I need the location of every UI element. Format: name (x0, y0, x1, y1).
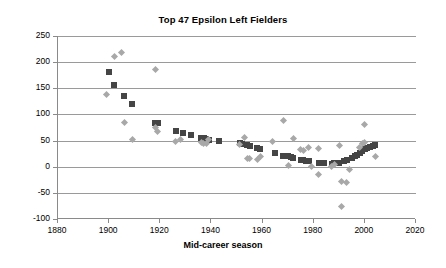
data-point-square (188, 132, 194, 138)
data-point-diamond (338, 203, 345, 210)
x-tick-label: 1920 (139, 225, 179, 235)
x-axis-title: Mid-career season (0, 240, 446, 250)
data-point-diamond (279, 117, 286, 124)
data-point-square (257, 146, 263, 152)
data-point-square (321, 160, 327, 166)
data-point-square (272, 150, 278, 156)
y-tick-label: 50 (10, 135, 50, 145)
data-point-diamond (154, 128, 161, 135)
gridline (58, 88, 416, 89)
data-point-diamond (336, 142, 343, 149)
x-tick-label: 2020 (395, 225, 435, 235)
x-tick-mark (159, 219, 160, 223)
x-tick-mark (210, 219, 211, 223)
data-point-diamond (152, 66, 159, 73)
data-point-square (216, 138, 222, 144)
data-point-diamond (315, 145, 322, 152)
y-tick-label: -50 (10, 187, 50, 197)
chart-title: Top 47 Epsilon Left Fielders (0, 14, 446, 25)
data-point-diamond (118, 49, 125, 56)
data-point-square (173, 128, 179, 134)
x-tick-label: 2000 (344, 225, 384, 235)
x-tick-mark (313, 219, 314, 223)
x-tick-label: 1980 (293, 225, 333, 235)
data-point-diamond (308, 163, 315, 170)
x-tick-label: 1900 (88, 225, 128, 235)
y-tick-mark (53, 219, 57, 220)
y-tick-label: -100 (10, 213, 50, 223)
data-point-diamond (121, 119, 128, 126)
data-point-diamond (103, 90, 110, 97)
data-point-diamond (372, 153, 379, 160)
x-tick-mark (57, 219, 58, 223)
x-tick-mark (364, 219, 365, 223)
data-point-diamond (269, 138, 276, 145)
gridline (58, 36, 416, 37)
plot-area (57, 36, 415, 219)
data-point-diamond (361, 121, 368, 128)
x-tick-label: 1940 (190, 225, 230, 235)
data-point-square (121, 93, 127, 99)
data-point-square (290, 155, 296, 161)
data-point-diamond (315, 171, 322, 178)
gridline (58, 193, 416, 194)
y-tick-label: 200 (10, 56, 50, 66)
y-tick-label: 0 (10, 161, 50, 171)
data-point-square (180, 130, 186, 136)
data-point-diamond (111, 53, 118, 60)
x-tick-mark (108, 219, 109, 223)
x-tick-mark (415, 219, 416, 223)
x-tick-label: 1960 (242, 225, 282, 235)
x-tick-mark (262, 219, 263, 223)
gridline (58, 167, 416, 168)
y-tick-label: 100 (10, 108, 50, 118)
y-tick-label: 250 (10, 30, 50, 40)
chart-container: Top 47 Epsilon Left Fielders 25020015010… (0, 0, 446, 268)
data-point-diamond (129, 136, 136, 143)
data-point-square (372, 142, 378, 148)
x-tick-label: 1880 (37, 225, 77, 235)
gridline (58, 114, 416, 115)
gridline (58, 62, 416, 63)
data-point-diamond (343, 179, 350, 186)
data-point-square (111, 82, 117, 88)
data-point-square (129, 101, 135, 107)
y-tick-label: 150 (10, 82, 50, 92)
data-point-square (247, 143, 253, 149)
data-point-square (106, 69, 112, 75)
